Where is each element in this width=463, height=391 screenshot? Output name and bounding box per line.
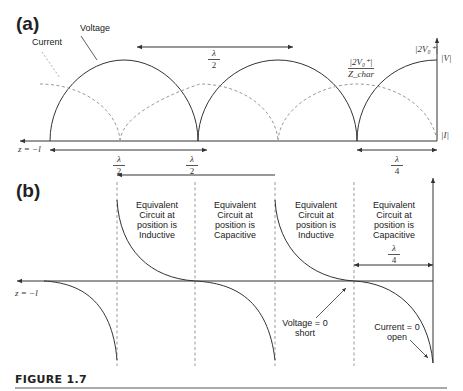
top-arrow-label: λ 2 [208, 48, 220, 71]
current-zero-pointer [410, 340, 428, 358]
current-peak-label: |2V₀⁺| Z_char [348, 57, 374, 80]
figure-caption: FIGURE 1.7 [15, 373, 87, 386]
quarter-arrow-label-b: λ 4 [388, 243, 400, 266]
voltage-pointer [81, 36, 97, 60]
region-3-text: EquivalentCircuit at position isInductiv… [285, 200, 347, 240]
panel-a-z-start-label: z = −l [18, 144, 41, 154]
voltage-zero-pointer [316, 288, 346, 318]
region-1-text: EquivalentCircuit at position isInductiv… [126, 200, 188, 240]
current-zero-annotation: Current = 0 open [362, 322, 432, 342]
panel-b-label: (b) [16, 180, 40, 202]
current-standing-wave [40, 84, 437, 141]
voltage-zero-annotation: Voltage = 0 short [270, 318, 340, 338]
current-axis-label: |I| [441, 130, 449, 140]
voltage-peak-label: |2V₀⁺| [415, 44, 438, 54]
lower-right-arrow-label: λ 4 [391, 154, 403, 177]
panel-a-plot [20, 36, 437, 175]
current-legend-label: Current [32, 37, 62, 47]
region-2-text: EquivalentCircuit at position isCapaciti… [204, 200, 266, 240]
voltage-standing-wave [50, 60, 437, 141]
panel-b-z-start-label: z = −l [15, 288, 38, 298]
voltage-legend-label: Voltage [80, 23, 110, 33]
lower-mid-arrow-label: λ 2 [186, 154, 198, 177]
current-pointer [42, 52, 60, 78]
region-4-text: EquivalentCircuit at position isCapaciti… [363, 200, 425, 240]
lower-left-arrow-label: λ 2 [113, 154, 125, 177]
voltage-axis-label: |V| [441, 53, 451, 63]
panel-a-label: (a) [16, 13, 39, 35]
